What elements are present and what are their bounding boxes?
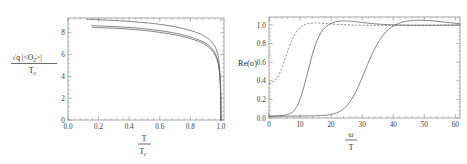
left-y-axis-numerator: √q |<O2>| [12,53,42,63]
y-tick-label: 1.0 [257,22,266,30]
condensate-vs-temperature-chart: 0.00.20.40.60.81.002468 √q |<O2>| Tc T T… [0,0,234,164]
left-y-axis-label: √q |<O2>| Tc [11,53,57,76]
y-tick-label: 0 [61,117,65,125]
x-tick-label: 0.4 [125,123,134,131]
y-tick-label: 6 [61,51,65,59]
left-x-axis-denominator: Tc [139,147,147,157]
y-tick-label: 8 [61,29,65,37]
left-frame [68,18,224,120]
x-tick-label: 0.8 [186,123,195,131]
y-tick-label: 0.2 [257,96,266,104]
left-x-axis-numerator: T [142,134,147,143]
y-tick-label: 0.8 [257,40,266,48]
right-frame [269,17,460,118]
right-x-axis-denominator: T [349,143,354,152]
x-tick-label: 0.0 [64,123,73,131]
left-chart-panel: 0.00.20.40.60.81.002468 √q |<O2>| Tc T T… [0,0,234,164]
right-chart-panel: 01020304050600.00.20.40.60.81.0 Re(σ) ω … [234,0,467,164]
left-y-axis-denominator: Tc [29,66,37,76]
left-x-axis-label: T Tc [138,134,151,157]
right-x-axis-numerator: ω [349,130,354,139]
y-tick-label: 2 [61,95,65,103]
x-tick-label: 30 [359,121,367,129]
right-y-axis-label: Re(σ) [238,59,257,68]
data-curve-curve-upper [87,19,221,120]
data-curve-curve-middle [92,26,221,120]
x-tick-label: 10 [296,121,304,129]
y-tick-label: 0.0 [257,115,266,123]
x-tick-label: 20 [328,121,336,129]
x-tick-label: 60 [452,121,460,129]
x-tick-label: 40 [390,121,398,129]
x-tick-label: 0 [267,121,271,129]
figure-container: 0.00.20.40.60.81.002468 √q |<O2>| Tc T T… [0,0,467,164]
right-x-axis-label: ω T [345,130,357,152]
y-tick-label: 4 [61,73,65,81]
data-curve-curve-dashed-low-gap [269,23,460,84]
y-tick-label: 0.4 [257,77,266,85]
data-curve-curve-mid-gap [269,21,460,116]
x-tick-label: 50 [421,121,429,129]
x-tick-label: 0.6 [155,123,164,131]
x-tick-label: 0.2 [94,123,103,131]
x-tick-label: 1.0 [216,123,225,131]
data-curve-curve-high-gap [269,20,460,116]
y-tick-label: 0.6 [257,59,266,67]
conductivity-vs-frequency-chart: 01020304050600.00.20.40.60.81.0 Re(σ) ω … [234,0,467,164]
